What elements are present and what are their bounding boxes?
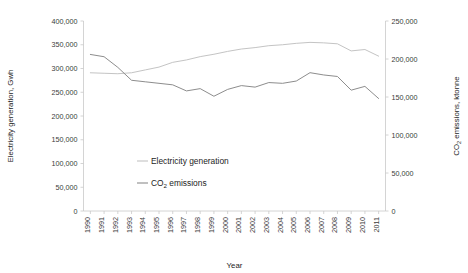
series-line-electricity-generation (90, 42, 378, 73)
x-axis-tick-label: 1993 (125, 217, 134, 233)
y-axis-right-tick-label: 200,000 (392, 55, 418, 64)
y-axis-left-tick-label: 100,000 (52, 159, 78, 168)
y-axis-left-tick-label: 150,000 (52, 135, 78, 144)
y-axis-left-tick-label: 350,000 (52, 40, 78, 49)
y-axis-left-tick-label: 0 (74, 207, 78, 216)
legend-item-co2-emissions: CO2 emissions (137, 178, 207, 189)
x-axis-tick-label: 2004 (276, 217, 285, 233)
y-axis-right-tick-label: 50,000 (392, 169, 414, 178)
x-axis-tick-label: 1996 (166, 217, 175, 233)
x-axis-tick-label: 2010 (358, 217, 367, 233)
chart-container: 050,000100,000150,000200,000250,000300,0… (0, 0, 468, 273)
legend-label: CO2 emissions (151, 178, 207, 189)
y-axis-left-tick-label: 300,000 (52, 64, 78, 73)
x-axis-tick-label: 2001 (234, 217, 243, 233)
x-axis-tick-label: 2006 (303, 217, 312, 233)
y-axis-left-tick-label: 50,000 (56, 183, 78, 192)
y-axis-right-tick-label: 250,000 (392, 17, 418, 26)
y-axis-right-title: CO2 emissions, ktonne (452, 76, 462, 155)
legend-item-electricity-generation: Electricity generation (137, 156, 229, 166)
x-axis-tick-label: 2011 (372, 217, 381, 232)
axis-labels-layer: 050,000100,000150,000200,000250,000300,0… (6, 17, 462, 270)
y-axis-left-tick-label: 200,000 (52, 112, 78, 121)
y-axis-right-tick-label: 150,000 (392, 93, 418, 102)
y-axis-right-tick-label: 100,000 (392, 131, 418, 140)
series-line-co2-emissions (90, 54, 378, 98)
x-axis-tick-label: 2005 (289, 217, 298, 233)
x-axis-tick-label: 2008 (330, 217, 339, 233)
chart-legend: Electricity generationCO2 emissions (137, 156, 229, 189)
x-axis-tick-label: 2002 (248, 217, 257, 233)
x-axis-tick-label: 1994 (138, 217, 147, 233)
series-layer (90, 42, 378, 98)
x-axis-tick-label: 2009 (344, 217, 353, 233)
x-axis-tick-label: 1990 (83, 217, 92, 233)
y-axis-left-tick-label: 400,000 (52, 17, 78, 26)
x-axis-tick-label: 2007 (317, 217, 326, 233)
y-axis-left-tick-label: 250,000 (52, 88, 78, 97)
x-axis-tick-label: 2003 (262, 217, 271, 233)
legend-label: Electricity generation (151, 156, 229, 166)
y-axis-right-title-text: CO2 emissions, ktonne (452, 76, 462, 155)
line-chart: 050,000100,000150,000200,000250,000300,0… (0, 0, 468, 273)
x-axis-title: Year (227, 261, 243, 270)
x-axis-tick-label: 1999 (207, 217, 216, 233)
y-axis-left-title: Electricity generation, Gwh (6, 70, 15, 163)
x-axis-tick-label: 1998 (193, 217, 202, 233)
x-axis-tick-label: 1991 (97, 217, 106, 233)
y-axis-right-tick-label: 0 (392, 207, 396, 216)
x-axis-tick-label: 2000 (221, 217, 230, 233)
x-axis-tick-label: 1997 (179, 217, 188, 233)
x-axis-tick-label: 1992 (111, 217, 120, 233)
x-axis-tick-label: 1995 (152, 217, 161, 233)
